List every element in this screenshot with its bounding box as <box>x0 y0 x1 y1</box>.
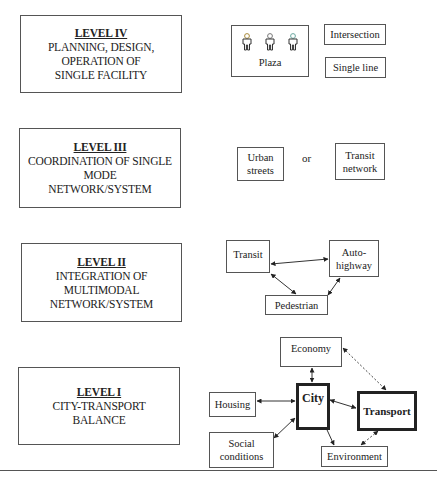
social-conditions-line-1: Social <box>228 437 254 450</box>
housing-node: Housing <box>209 392 256 417</box>
city-node: City <box>296 383 330 430</box>
housing-label: Housing <box>215 398 251 411</box>
transport-label: Transport <box>363 405 410 417</box>
social-conditions-line-2: conditions <box>220 450 264 463</box>
transport-node: Transport <box>357 391 417 431</box>
bottom-rule <box>0 470 437 471</box>
economy-node: Economy <box>280 337 342 367</box>
economy-label: Economy <box>291 342 331 355</box>
city-social-link <box>274 418 295 438</box>
environment-node: Environment <box>321 446 388 467</box>
city-transport-link <box>330 400 356 408</box>
economy-transport-link <box>343 348 386 390</box>
city-label: City <box>302 391 324 406</box>
social-conditions-node: Social conditions <box>209 432 274 468</box>
transport-environment-link <box>361 431 378 445</box>
environment-label: Environment <box>327 450 382 463</box>
